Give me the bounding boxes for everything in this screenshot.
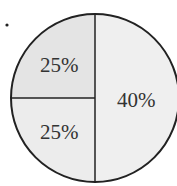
label-right: 40%: [117, 88, 156, 112]
pie-chart: 25% 25% 40%: [0, 0, 177, 186]
label-lower-left: 25%: [40, 120, 79, 144]
label-upper-left: 25%: [40, 53, 79, 77]
label-fragment-dot: [5, 23, 8, 26]
